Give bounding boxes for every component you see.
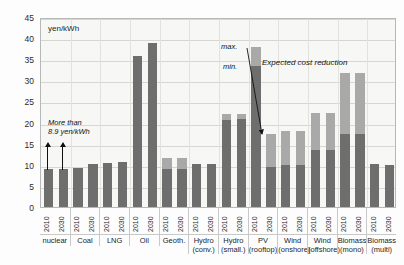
bar-min-segment — [88, 164, 97, 207]
bar[interactable] — [44, 169, 53, 207]
year-separator — [277, 208, 278, 234]
bar[interactable] — [88, 164, 97, 207]
y-axis-tick: 40 — [0, 34, 34, 44]
bar-min-segment — [281, 165, 290, 207]
bar[interactable] — [133, 56, 142, 207]
bar[interactable] — [148, 43, 157, 207]
bar[interactable] — [207, 164, 216, 207]
year-separator — [337, 208, 338, 234]
category-label: nuclear — [40, 234, 70, 246]
bar[interactable] — [237, 114, 246, 207]
y-axis-tick: 5 — [0, 182, 34, 192]
year-tick-label: 2010 — [281, 208, 288, 232]
year-tick-label: 2010 — [192, 208, 199, 232]
year-tick-label: 2030 — [355, 208, 362, 232]
bar[interactable] — [251, 47, 260, 207]
year-tick-label: 2030 — [58, 208, 65, 232]
year-tick-label: 2030 — [207, 208, 214, 232]
more-than-up-arrow — [62, 146, 63, 170]
year-tick-label: 2030 — [266, 208, 273, 232]
bar[interactable] — [103, 163, 112, 207]
y-axis-tick: 15 — [0, 140, 34, 150]
bar-min-segment — [237, 119, 246, 207]
max-label: max. — [221, 42, 237, 51]
year-separator — [366, 208, 367, 234]
year-tick-label: 2010 — [43, 208, 50, 232]
category-label: Hydro (small.) — [218, 234, 248, 254]
y-axis-tick: 0 — [0, 203, 34, 213]
bar[interactable] — [222, 114, 231, 207]
more-than-up-arrow — [47, 146, 48, 170]
bar[interactable] — [177, 158, 186, 207]
year-separator — [99, 208, 100, 234]
more-than-annotation: More than 8.9 yen/kWh — [48, 118, 90, 137]
year-tick-label: 2010 — [340, 208, 347, 232]
year-tick-label: 2010 — [370, 208, 377, 232]
category-label: Wind (offshore) — [307, 234, 337, 254]
year-tick-label: 2030 — [177, 208, 184, 232]
y-axis-tick: 45 — [0, 13, 34, 23]
cost-comparison-bar-chart: 051015202530354045 201020302010203020102… — [0, 0, 404, 265]
bar[interactable] — [281, 131, 290, 207]
bar[interactable] — [118, 162, 127, 207]
y-axis-tick: 25 — [0, 97, 34, 107]
bar-min-segment — [355, 134, 364, 207]
bar-min-segment — [44, 169, 53, 207]
bar-min-segment — [385, 165, 394, 207]
bar[interactable] — [385, 165, 394, 207]
bar-min-segment — [311, 150, 320, 207]
year-tick-label: 2030 — [88, 208, 95, 232]
bar[interactable] — [59, 169, 68, 207]
bar-min-segment — [326, 150, 335, 207]
year-tick-label: 2010 — [103, 208, 110, 232]
y-axis-tick: 30 — [0, 76, 34, 86]
category-label: LNG — [99, 234, 129, 246]
bar[interactable] — [266, 134, 275, 207]
bar[interactable] — [370, 164, 379, 207]
year-tick-label: 2030 — [147, 208, 154, 232]
y-axis-tick: 20 — [0, 119, 34, 129]
bar-min-segment — [192, 164, 201, 207]
year-tick-label: 2030 — [118, 208, 125, 232]
bar[interactable] — [311, 113, 320, 207]
year-tick-label: 2010 — [310, 208, 317, 232]
category-label: Biomass (multi) — [366, 234, 396, 254]
bar-min-segment — [370, 164, 379, 207]
expected-cost-reduction-annotation: Expected cost reduction — [262, 58, 347, 68]
bar[interactable] — [162, 158, 171, 207]
year-tick-label: 2010 — [221, 208, 228, 232]
category-label: Geoth. — [159, 234, 189, 246]
year-tick-label: 2010 — [162, 208, 169, 232]
bar-min-segment — [162, 169, 171, 207]
bar[interactable] — [340, 73, 349, 207]
category-label: Hydro (conv.) — [188, 234, 218, 254]
year-separator — [307, 208, 308, 234]
year-tick-label: 2010 — [132, 208, 139, 232]
bar[interactable] — [355, 73, 364, 207]
category-label: Oil — [129, 234, 159, 246]
x-axis: 2010203020102030201020302010203020102030… — [40, 208, 396, 265]
bar-min-segment — [251, 66, 260, 207]
bar[interactable] — [192, 164, 201, 207]
category-label: PV (rooftop) — [248, 234, 278, 254]
year-tick-label: 2030 — [325, 208, 332, 232]
year-separator — [70, 208, 71, 234]
plot-area — [40, 18, 396, 208]
bar[interactable] — [73, 168, 82, 207]
bar-min-segment — [266, 167, 275, 207]
year-tick-label: 2030 — [296, 208, 303, 232]
bar-min-segment — [59, 169, 68, 207]
year-separator — [159, 208, 160, 234]
y-axis-tick: 35 — [0, 55, 34, 65]
bar-min-segment — [340, 134, 349, 207]
bar-min-segment — [148, 43, 157, 207]
bar-min-segment — [73, 168, 82, 207]
year-tick-label: 2030 — [385, 208, 392, 232]
bar-series — [41, 19, 395, 207]
year-separator — [129, 208, 130, 234]
bar[interactable] — [296, 131, 305, 207]
year-separator — [188, 208, 189, 234]
category-label: Coal — [70, 234, 100, 246]
y-axis-tick: 10 — [0, 161, 34, 171]
bar[interactable] — [326, 113, 335, 207]
